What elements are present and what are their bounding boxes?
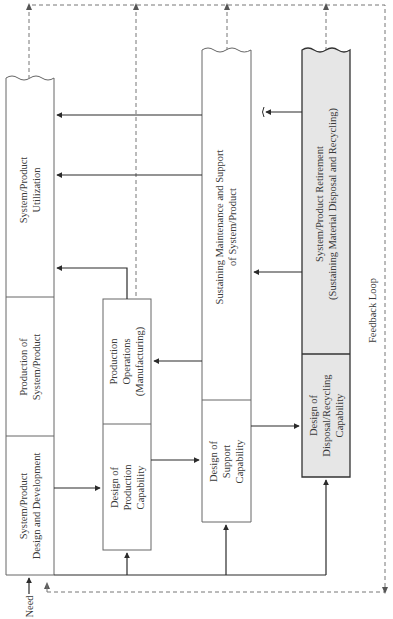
label-design-production-capability: Design of Production Capability <box>103 424 151 550</box>
label-production-of-system: Production of System/Product <box>6 297 54 436</box>
label-design-development: System/Product Design and Development <box>6 436 54 575</box>
label-retirement: System/Product Retirement (Sustaining Ma… <box>302 54 350 354</box>
label-design-support-capability: Design of Support Capability <box>202 400 251 522</box>
label-design-disposal-capability: Design of Disposal/Recycling Capability <box>302 354 350 477</box>
label-sustaining-maintenance: Sustaining Maintenance and Support of Sy… <box>202 54 251 400</box>
label-production-operations: Production Operations (Manufacturing) <box>103 299 151 424</box>
label-utilization: System/Product Utilization <box>6 82 54 297</box>
label-feedback-loop: Feedback Loop <box>362 250 384 370</box>
flow-lines <box>29 112 326 594</box>
label-need: Need <box>18 594 40 619</box>
